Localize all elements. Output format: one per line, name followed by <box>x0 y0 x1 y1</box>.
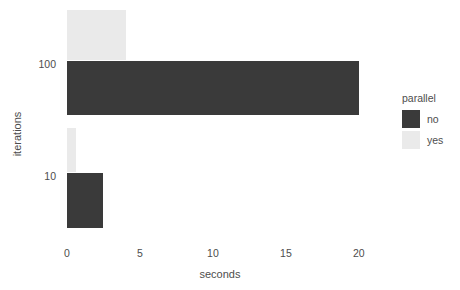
legend-swatch-no <box>402 110 420 128</box>
legend-title: parallel <box>402 92 460 104</box>
bar-100-no <box>67 61 359 115</box>
legend-label: no <box>427 113 439 125</box>
legend-label: yes <box>427 134 443 146</box>
legend-swatch-yes <box>402 131 420 149</box>
plot-area <box>67 0 372 240</box>
x-axis-title: seconds <box>0 268 440 280</box>
legend: parallel noyes <box>402 92 460 150</box>
bar-10-yes <box>67 128 76 172</box>
bar-chart: 10010 05101520 seconds iterations parall… <box>0 0 460 290</box>
x-tick-label: 10 <box>193 247 233 259</box>
y-tick-label: 100 <box>8 58 56 70</box>
x-tick-label: 15 <box>266 247 306 259</box>
x-tick-label: 5 <box>120 247 160 259</box>
legend-entries: noyes <box>402 108 460 150</box>
bar-100-yes <box>67 10 126 60</box>
y-axis-title: iterations <box>11 84 23 184</box>
x-tick-label: 20 <box>339 247 379 259</box>
legend-item-no[interactable]: no <box>402 108 460 129</box>
bar-10-no <box>67 173 103 228</box>
legend-item-yes[interactable]: yes <box>402 129 460 150</box>
x-tick-label: 0 <box>47 247 87 259</box>
